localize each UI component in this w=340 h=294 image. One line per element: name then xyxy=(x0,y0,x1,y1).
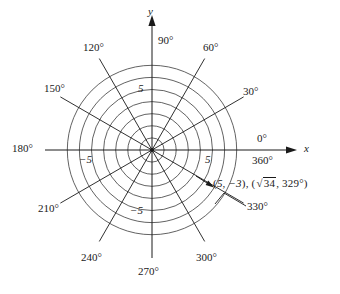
y-scale-label-negative: −5 xyxy=(130,205,143,216)
angle-label-150: 150° xyxy=(44,83,65,94)
x-scale-label-negative: −5 xyxy=(79,154,92,165)
angle-label-30: 30° xyxy=(243,86,258,97)
angle-label-0: 0° xyxy=(257,133,267,144)
polar-coordinate-figure: x y 0° 360° 30° 60° 90° 120° 150° 180° 2… xyxy=(0,0,340,294)
angle-label-210: 210° xyxy=(38,203,59,214)
angle-label-300: 300° xyxy=(196,252,217,263)
annotation-polar-theta: 329° xyxy=(282,177,304,189)
cartesian-axes xyxy=(45,22,290,258)
annotation-polar-close: ) xyxy=(304,177,308,189)
y-scale-label-positive: 5 xyxy=(138,83,144,94)
angle-label-270: 270° xyxy=(138,266,159,277)
origin-point xyxy=(150,148,154,152)
angle-label-360: 360° xyxy=(252,155,273,166)
angle-label-180: 180° xyxy=(12,143,33,154)
annotation-radical-group: √34 xyxy=(255,177,276,189)
annotation-rect-y: −3 xyxy=(228,177,241,189)
angle-label-120: 120° xyxy=(83,42,104,53)
x-axis-arrowhead xyxy=(286,146,297,153)
label-leader-330 xyxy=(215,193,246,206)
point-annotation: (5, −3), (√34, 329°) xyxy=(213,177,308,189)
angle-label-60: 60° xyxy=(203,42,218,53)
angle-label-330: 330° xyxy=(247,201,268,212)
y-axis-label: y xyxy=(148,6,153,17)
angle-label-90: 90° xyxy=(158,35,173,46)
x-axis-label: x xyxy=(304,143,309,154)
angle-label-240: 240° xyxy=(81,252,102,263)
x-scale-label-positive: 5 xyxy=(205,154,211,165)
annotation-radicand: 34 xyxy=(263,177,276,189)
leader-330-polyline xyxy=(215,193,246,206)
